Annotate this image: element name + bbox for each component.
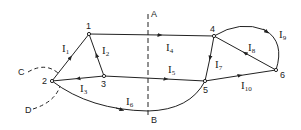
- current-i7: I7: [215, 59, 222, 72]
- node-4-label: 4: [210, 25, 215, 34]
- node-6-label: 6: [280, 71, 285, 80]
- current-i6: I6: [126, 96, 133, 109]
- current-i2: I2: [102, 45, 109, 58]
- node-3-label: 3: [101, 80, 106, 89]
- branch-i4: [89, 34, 214, 36]
- current-i9: I9: [279, 29, 286, 42]
- cut-label-b: B: [151, 116, 157, 125]
- node-2-label: 2: [42, 77, 47, 86]
- node-5-label: 5: [203, 86, 208, 95]
- cut-label-a: A: [151, 10, 157, 19]
- current-i10: I10: [241, 80, 252, 93]
- surface-label-c: C: [18, 68, 25, 77]
- circuit-diagram: [0, 0, 301, 130]
- branch-i9: [214, 26, 279, 70]
- current-i8: I8: [248, 42, 255, 55]
- surface-d: [33, 86, 60, 109]
- branch-i1: [52, 34, 89, 81]
- branch-i3: [52, 76, 104, 81]
- current-i3: I3: [80, 83, 87, 96]
- surface-label-d: D: [25, 106, 32, 115]
- branch-i7: [205, 36, 214, 81]
- current-i1: I1: [62, 43, 69, 56]
- node-1-label: 1: [86, 22, 91, 31]
- branch-i5: [104, 76, 205, 81]
- current-i4: I4: [166, 42, 173, 55]
- branch-i8: [214, 36, 276, 70]
- surface-c: [28, 67, 58, 73]
- current-i5: I5: [168, 64, 175, 77]
